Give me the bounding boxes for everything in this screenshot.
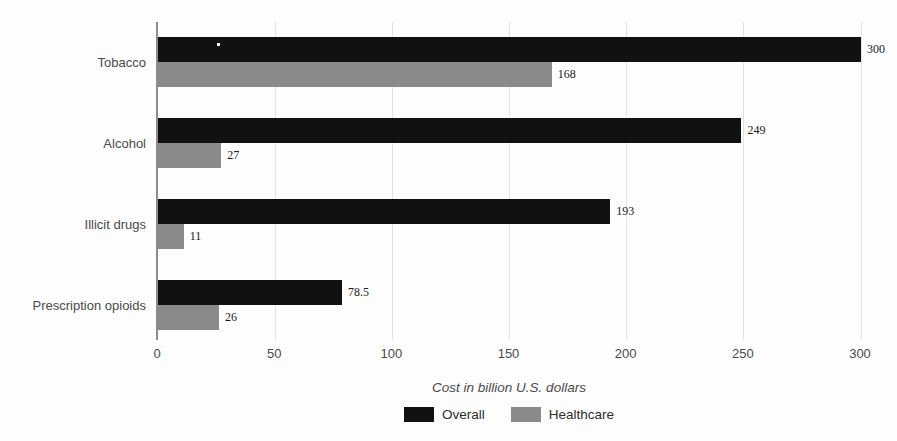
value-label-overall: 300 xyxy=(867,37,885,62)
legend-item-overall: Overall xyxy=(404,407,485,422)
bar-healthcare-alcohol xyxy=(158,143,221,168)
legend-label-overall: Overall xyxy=(442,407,485,422)
legend-item-healthcare: Healthcare xyxy=(511,407,614,422)
value-label-healthcare: 27 xyxy=(227,143,239,168)
bar-overall-prescription-opioids xyxy=(158,280,342,305)
x-axis-title: Cost in billion U.S. dollars xyxy=(156,380,862,395)
bar-overall-alcohol xyxy=(158,118,741,143)
value-label-overall: 249 xyxy=(747,118,765,143)
legend-label-healthcare: Healthcare xyxy=(549,407,614,422)
value-label-healthcare: 168 xyxy=(558,62,576,87)
gridline-x-250 xyxy=(743,22,744,340)
x-tick-label-100: 100 xyxy=(380,346,402,361)
x-tick-label-200: 200 xyxy=(615,346,637,361)
bar-healthcare-illicit-drugs xyxy=(158,224,184,249)
bar-healthcare-tobacco xyxy=(158,62,552,87)
legend: OverallHealthcare xyxy=(156,407,862,422)
category-label-tobacco: Tobacco xyxy=(0,55,146,70)
category-label-alcohol: Alcohol xyxy=(0,136,146,151)
x-tick-label-300: 300 xyxy=(849,346,871,361)
value-label-overall: 78.5 xyxy=(348,280,369,305)
gridline-x-200 xyxy=(626,22,627,340)
bar-overall-illicit-drugs xyxy=(158,199,610,224)
x-tick-label-150: 150 xyxy=(498,346,520,361)
x-tick-label-50: 50 xyxy=(267,346,281,361)
plot-area: 300168249271931178.526 xyxy=(156,22,890,340)
value-label-overall: 193 xyxy=(616,199,634,224)
x-tick-label-0: 0 xyxy=(153,346,160,361)
grouped-bar-chart: 300168249271931178.526 TobaccoAlcoholIll… xyxy=(0,0,897,441)
gridline-x-300 xyxy=(861,22,862,340)
bar-healthcare-prescription-opioids xyxy=(158,305,219,330)
speck-artifact xyxy=(217,43,220,46)
category-label-prescription-opioids: Prescription opioids xyxy=(0,298,146,313)
category-label-illicit-drugs: Illicit drugs xyxy=(0,217,146,232)
x-tick-label-250: 250 xyxy=(732,346,754,361)
value-label-healthcare: 26 xyxy=(225,305,237,330)
legend-swatch-healthcare xyxy=(511,407,541,422)
bar-overall-tobacco xyxy=(158,37,861,62)
value-label-healthcare: 11 xyxy=(190,224,202,249)
legend-swatch-overall xyxy=(404,407,434,422)
